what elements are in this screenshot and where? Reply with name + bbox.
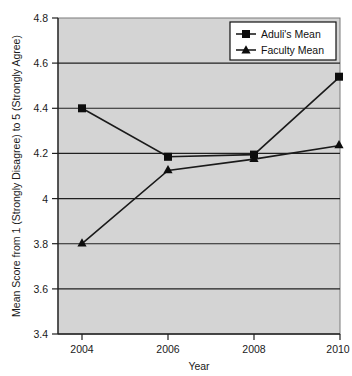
- data-point-adulis-2006: [164, 153, 172, 161]
- y-tick-label-4-8: 4.8: [33, 12, 48, 24]
- y-tick-label-3-4: 3.4: [33, 328, 48, 340]
- x-tick-label-2008: 2008: [242, 343, 266, 355]
- y-tick-label-4-0: 4: [42, 193, 48, 205]
- y-tick-label-4-6: 4.6: [33, 57, 48, 69]
- y-tick-label-4-2: 4.2: [33, 147, 48, 159]
- y-tick-label-3-8: 3.8: [33, 238, 48, 250]
- y-axis-title: Mean Score from 1 (Strongly Disagree) to…: [10, 35, 22, 317]
- data-point-adulis-2010: [335, 73, 343, 81]
- x-axis-title: Year: [188, 360, 210, 372]
- legend-label-faculty-mean: Faculty Mean: [261, 44, 324, 56]
- chart-legend: Aduli's Mean Faculty Mean: [230, 22, 336, 60]
- x-tick-label-2004: 2004: [70, 343, 94, 355]
- y-tick-label-3-6: 3.6: [33, 283, 48, 295]
- legend-label-adulis-mean: Aduli's Mean: [261, 28, 321, 40]
- plot-area: [58, 18, 340, 334]
- x-tick-label-2010: 2010: [326, 343, 350, 355]
- x-tick-label-2006: 2006: [156, 343, 180, 355]
- y-tick-label-4-4: 4.4: [33, 102, 48, 114]
- legend-square-marker-icon: [242, 30, 250, 38]
- line-chart: 4.8 4.6 4.4 4.2 4 3.8 3.6 3.4 2004 2006 …: [0, 0, 352, 376]
- chart-canvas: 4.8 4.6 4.4 4.2 4 3.8 3.6 3.4 2004 2006 …: [0, 0, 352, 376]
- data-point-adulis-2004: [78, 104, 86, 112]
